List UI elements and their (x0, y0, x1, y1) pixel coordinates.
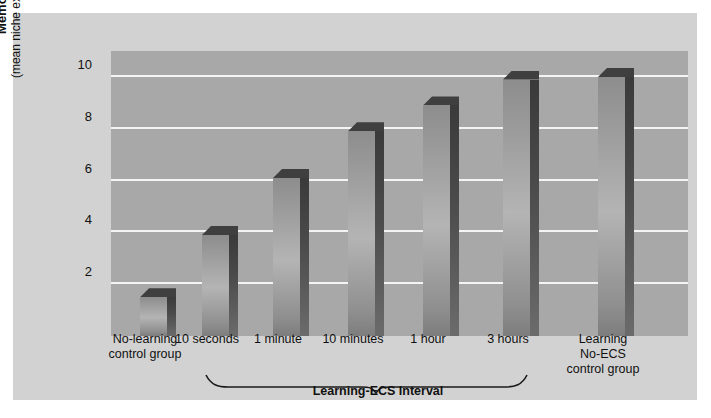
y-axis-tick-label: 4 (66, 212, 92, 227)
bar-top-face (202, 226, 238, 235)
chart-panel: Memory (mean niche explorations) 246810 … (13, 13, 697, 400)
bar-top-face (140, 288, 176, 297)
bar (140, 288, 176, 336)
y-axis-title: Memory (mean niche explorations) (0, 0, 24, 109)
bar-side-face (625, 77, 634, 336)
x-axis-category-label-line: No-ECS (548, 347, 658, 362)
y-axis-tick-label: 8 (66, 108, 92, 123)
plot-area (111, 51, 688, 336)
bar (598, 68, 634, 336)
bar-side-face (375, 131, 384, 336)
bar-side-face (530, 80, 539, 337)
x-axis-category-label-line: control group (90, 347, 200, 362)
bar (423, 96, 459, 336)
figure-root: Memory (mean niche explorations) 246810 … (0, 0, 711, 418)
x-axis-category-label-line: control group (548, 362, 658, 377)
bar-side-face (229, 235, 238, 336)
y-axis-tick-label: 10 (66, 56, 92, 71)
bar-top-face (598, 68, 634, 77)
bar-top-face (348, 122, 384, 131)
bar (202, 226, 238, 336)
bar (273, 169, 309, 336)
y-axis-tick-label: 2 (66, 264, 92, 279)
bar-side-face (450, 105, 459, 336)
x-axis-category-label-line: Learning (548, 332, 658, 347)
bar (348, 122, 384, 336)
y-axis-title-sub: (mean niche explorations) (10, 0, 24, 109)
y-axis-tick-label: 6 (66, 160, 92, 175)
group-bracket-label: Learning-ECS Interval (253, 384, 503, 398)
x-axis-category-label-line: 3 hours (453, 332, 563, 347)
bar (503, 71, 539, 337)
bar-side-face (167, 297, 176, 336)
bar-top-face (273, 169, 309, 178)
x-axis-category-label: LearningNo-ECScontrol group (548, 332, 658, 376)
bar-top-face (503, 71, 539, 80)
bar-side-face (300, 178, 309, 336)
x-axis-category-label: 3 hours (453, 332, 563, 347)
bar-top-face (423, 96, 459, 105)
